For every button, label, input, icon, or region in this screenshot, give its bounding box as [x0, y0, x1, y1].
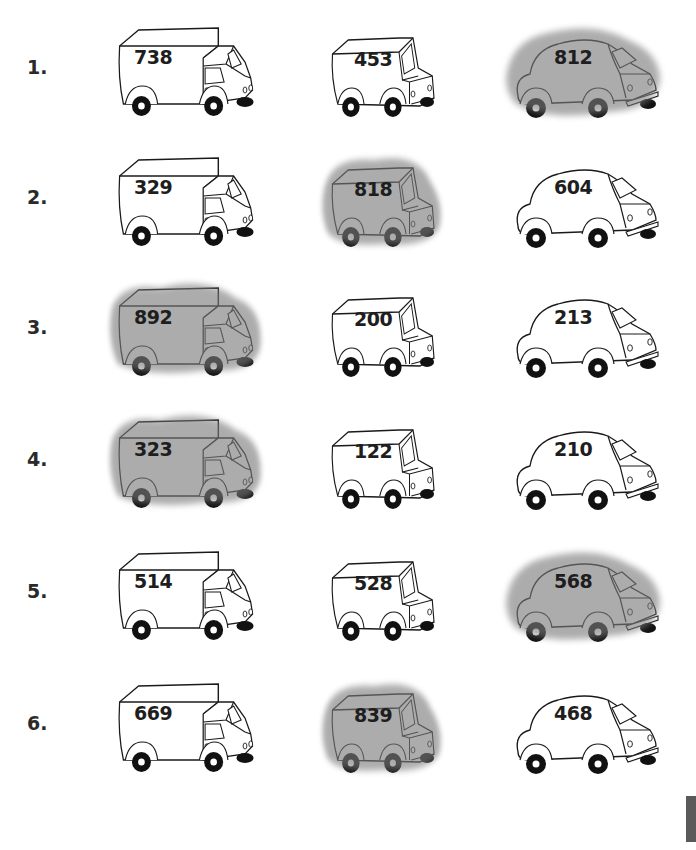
- shading-mark: [506, 552, 660, 639]
- car-icon: [508, 410, 668, 510]
- van-number: 453: [354, 48, 392, 70]
- shading-mark: [110, 416, 261, 505]
- truck-number: 669: [134, 702, 172, 724]
- van-number: 818: [354, 178, 392, 200]
- exercise-row: 2.329818604: [0, 148, 696, 258]
- truck-vehicle: 892: [112, 278, 264, 378]
- car-vehicle: 568: [508, 542, 668, 642]
- truck-number: 514: [134, 570, 172, 592]
- van-number: 839: [354, 704, 392, 726]
- truck-icon: [112, 542, 264, 642]
- car-number: 213: [554, 306, 592, 328]
- truck-icon: [112, 410, 264, 510]
- truck-number: 892: [134, 306, 172, 328]
- van-number: 122: [354, 440, 392, 462]
- van-vehicle: 528: [322, 542, 462, 642]
- car-icon: [508, 18, 668, 118]
- car-number: 468: [554, 702, 592, 724]
- car-vehicle: 812: [508, 18, 668, 118]
- car-icon: [508, 148, 668, 248]
- car-icon: [508, 278, 668, 378]
- truck-vehicle: 669: [112, 674, 264, 774]
- page-edge-tab: [686, 796, 696, 842]
- exercise-row: 5.514528568: [0, 542, 696, 652]
- shading-mark: [322, 158, 440, 244]
- truck-number: 738: [134, 46, 172, 68]
- shading-mark: [322, 684, 440, 770]
- truck-vehicle: 329: [112, 148, 264, 248]
- truck-vehicle: 738: [112, 18, 264, 118]
- van-number: 528: [354, 572, 392, 594]
- exercise-row: 3.892200213: [0, 278, 696, 388]
- row-number-label: 6.: [27, 712, 47, 734]
- truck-vehicle: 514: [112, 542, 264, 642]
- van-vehicle: 200: [322, 278, 462, 378]
- row-number-label: 5.: [27, 580, 47, 602]
- van-vehicle: 453: [322, 18, 462, 118]
- exercise-row: 6.669839468: [0, 674, 696, 784]
- car-icon: [508, 542, 668, 642]
- car-vehicle: 604: [508, 148, 668, 248]
- van-vehicle: 818: [322, 148, 462, 248]
- row-number-label: 3.: [27, 316, 47, 338]
- row-number-label: 4.: [27, 448, 47, 470]
- car-vehicle: 468: [508, 674, 668, 774]
- car-icon: [508, 674, 668, 774]
- truck-icon: [112, 148, 264, 248]
- truck-vehicle: 323: [112, 410, 264, 510]
- shading-mark: [110, 284, 261, 373]
- truck-number: 323: [134, 438, 172, 460]
- row-number-label: 2.: [27, 186, 47, 208]
- exercise-row: 1.738453812: [0, 18, 696, 128]
- truck-number: 329: [134, 176, 172, 198]
- car-vehicle: 213: [508, 278, 668, 378]
- car-number: 812: [554, 46, 592, 68]
- van-number: 200: [354, 308, 392, 330]
- row-number-label: 1.: [27, 56, 47, 78]
- shading-mark: [506, 28, 660, 115]
- car-number: 604: [554, 176, 592, 198]
- car-number: 210: [554, 438, 592, 460]
- car-number: 568: [554, 570, 592, 592]
- exercise-row: 4.323122210: [0, 410, 696, 520]
- truck-icon: [112, 674, 264, 774]
- truck-icon: [112, 18, 264, 118]
- car-vehicle: 210: [508, 410, 668, 510]
- van-vehicle: 839: [322, 674, 462, 774]
- truck-icon: [112, 278, 264, 378]
- van-vehicle: 122: [322, 410, 462, 510]
